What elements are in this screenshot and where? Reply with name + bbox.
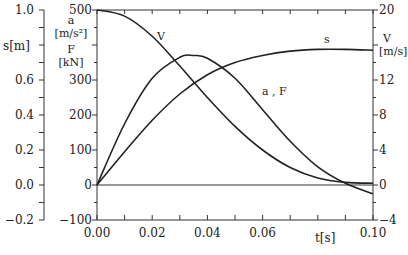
v-tick-label: 12: [379, 73, 394, 87]
svg-text:[kN]: [kN]: [59, 56, 84, 69]
curve-label-af: a , F: [262, 85, 287, 98]
s-tick-label: −0.2: [5, 213, 34, 227]
curve-label-s: s: [324, 33, 330, 46]
curve-label-v: V: [156, 30, 166, 43]
svg-text:a: a: [68, 14, 75, 27]
x-axis-label: t[s]: [315, 231, 335, 245]
x-tick-label: 0.00: [84, 226, 111, 240]
svg-text:V: V: [382, 32, 392, 45]
af-tick-label: 100: [69, 143, 92, 157]
chart: 1.00.60.40.20.0−0.25003002001000−1002012…: [0, 0, 408, 255]
svg-text:[m/s]: [m/s]: [379, 45, 407, 58]
x-tick-label: 0.06: [249, 226, 276, 240]
v-tick-label: 8: [379, 108, 387, 122]
x-tick-label: 0.10: [360, 226, 387, 240]
v-tick-label: 4: [379, 143, 387, 157]
curve-v: [97, 10, 373, 183]
a-f-axis-label: a[m/s²]F[kN]: [55, 14, 88, 69]
s-tick-label: 0.6: [15, 73, 34, 87]
s-axis-label: s[m]: [3, 39, 30, 53]
v-tick-label: 20: [379, 3, 394, 17]
curve-af: [97, 55, 373, 194]
curves: [97, 10, 373, 194]
af-tick-label: 0: [84, 178, 92, 192]
curve-s: [97, 49, 373, 185]
v-tick-label: −4: [379, 213, 397, 227]
s-tick-label: 0.2: [15, 143, 34, 157]
v-axis-label: V[m/s]: [379, 32, 407, 58]
svg-text:[m/s²]: [m/s²]: [55, 27, 88, 40]
s-tick-label: 0.4: [15, 108, 34, 122]
af-tick-label: 300: [69, 73, 92, 87]
x-tick-label: 0.02: [139, 226, 166, 240]
svg-text:F: F: [67, 43, 75, 56]
s-tick-label: 1.0: [15, 3, 34, 17]
af-tick-label: 200: [69, 108, 92, 122]
v-tick-label: 0: [379, 178, 387, 192]
af-tick-label: −100: [59, 213, 92, 227]
s-tick-label: 0.0: [15, 178, 34, 192]
x-tick-label: 0.04: [194, 226, 221, 240]
